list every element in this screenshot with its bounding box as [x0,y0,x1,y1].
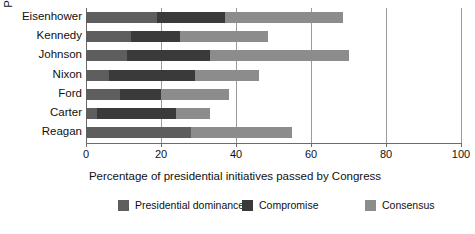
x-tick-label-100: 100 [446,148,475,160]
bar-row[interactable] [86,70,461,81]
bar-segment[interactable] [176,108,210,119]
bar-segment[interactable] [131,31,180,42]
bar-segment[interactable] [225,12,343,23]
legend-swatch-icon [242,200,253,211]
x-tick-mark-0 [86,143,87,147]
x-axis-title: Percentage of presidential initiatives p… [0,170,470,182]
legend-label: Presidential dominance [135,199,244,211]
x-axis-line [86,143,462,144]
bar-segment[interactable] [157,12,225,23]
bar-segment[interactable] [86,12,157,23]
x-tick-label-0: 0 [71,148,101,160]
bar-row[interactable] [86,89,461,100]
bar-segment[interactable] [86,127,191,138]
y-tick-label-carter: Carter [4,106,82,118]
bar-segment[interactable] [109,70,195,81]
bar-row[interactable] [86,108,461,119]
legend-label: Compromise [259,199,319,211]
x-tick-mark-60 [311,143,312,147]
legend-item[interactable]: Compromise [242,198,319,212]
bar-row[interactable] [86,12,461,23]
bar-row[interactable] [86,127,461,138]
legend-swatch-icon [365,200,376,211]
legend-item[interactable]: Consensus [365,198,435,212]
y-tick-label-reagan: Reagan [4,125,82,137]
chart-legend: Presidential dominanceCompromiseConsensu… [0,198,470,218]
x-tick-mark-40 [236,143,237,147]
gridline-100 [461,8,462,143]
bar-segment[interactable] [191,127,292,138]
plot-area [86,8,461,143]
x-tick-label-60: 60 [296,148,326,160]
y-tick-label-nixon: Nixon [4,68,82,80]
bar-segment[interactable] [161,89,229,100]
bar-segment[interactable] [97,108,176,119]
y-tick-label-johnson: Johnson [4,48,82,60]
x-tick-label-80: 80 [371,148,401,160]
y-tick-label-ford: Ford [4,87,82,99]
x-tick-mark-80 [386,143,387,147]
bar-segment[interactable] [120,89,161,100]
y-tick-label-kennedy: Kennedy [4,29,82,41]
bar-segment[interactable] [180,31,268,42]
bar-segment[interactable] [86,70,109,81]
x-tick-label-20: 20 [146,148,176,160]
legend-swatch-icon [118,200,129,211]
x-tick-mark-20 [161,143,162,147]
legend-item[interactable]: Presidential dominance [118,198,244,212]
bar-segment[interactable] [210,50,349,61]
bar-row[interactable] [86,50,461,61]
bar-segment[interactable] [86,50,127,61]
bar-segment[interactable] [86,108,97,119]
legend-label: Consensus [382,199,435,211]
y-tick-label-eisenhower: Eisenhower [4,10,82,22]
bar-segment[interactable] [195,70,259,81]
x-tick-label-40: 40 [221,148,251,160]
x-tick-mark-100 [461,143,462,147]
bar-segment[interactable] [86,31,131,42]
bar-row[interactable] [86,31,461,42]
bar-segment[interactable] [127,50,210,61]
bar-segment[interactable] [86,89,120,100]
